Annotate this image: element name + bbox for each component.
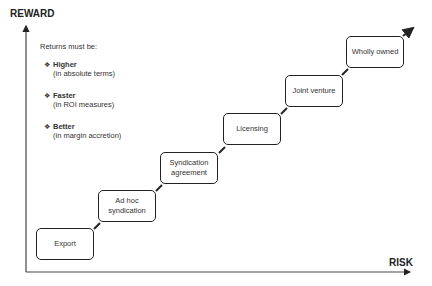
growth-arrow [403, 28, 413, 36]
note-sub: (in absolute terms) [53, 69, 121, 78]
note-head: Faster [53, 91, 121, 100]
notes-intro: Returns must be: [40, 42, 121, 51]
note-head: Better [53, 122, 121, 131]
step-joint-venture: Joint venture [285, 75, 343, 107]
step-ad-hoc-syndication: Ad hoc syndication [98, 190, 156, 222]
note-item-higher: ❖ Higher (in absolute terms) [53, 60, 121, 78]
note-item-better: ❖ Better (in margin accretion) [53, 122, 121, 140]
returns-notes: Returns must be: ❖ Higher (in absolute t… [40, 42, 121, 153]
step-export: Export [36, 228, 94, 260]
diamond-bullet-icon: ❖ [44, 91, 50, 100]
note-head: Higher [53, 60, 121, 69]
step-licensing: Licensing [223, 113, 281, 145]
step-syndication-agreement: Syndication agreement [160, 152, 218, 184]
y-axis-label: REWARD [10, 8, 54, 19]
note-sub: (in margin accretion) [53, 131, 121, 140]
diamond-bullet-icon: ❖ [44, 122, 50, 131]
x-axis-label: RISK [389, 257, 413, 268]
note-sub: (in ROI measures) [53, 100, 121, 109]
step-wholly-owned: Wholly owned [346, 36, 404, 68]
note-item-faster: ❖ Faster (in ROI measures) [53, 91, 121, 109]
diamond-bullet-icon: ❖ [44, 60, 50, 69]
